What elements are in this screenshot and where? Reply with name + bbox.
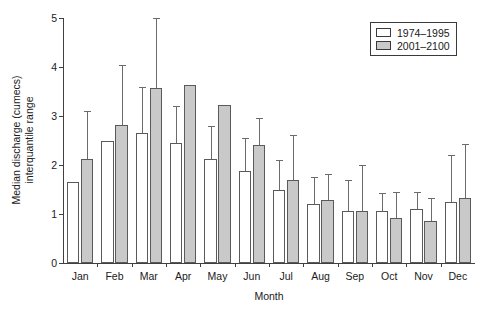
bar-jun-future <box>253 145 266 263</box>
x-axis-tick-mark <box>269 263 270 267</box>
bar-feb-future <box>115 125 128 263</box>
bar-oct-future <box>390 218 403 263</box>
y-axis-tick-mark <box>59 67 63 68</box>
y-axis-title: Median discharge (cumecs) interquantile … <box>0 0 46 280</box>
x-axis-tick-mark <box>338 263 339 267</box>
x-axis-tick-mark <box>200 263 201 267</box>
y-axis-tick-label: 0 <box>51 257 57 269</box>
error-bar-cap <box>414 192 421 193</box>
x-axis-tick-label-aug: Aug <box>311 270 330 282</box>
bar-dec-historic <box>445 202 458 263</box>
bar-may-historic <box>204 159 217 263</box>
chart-figure: Median discharge (cumecs) interquantile … <box>0 0 492 323</box>
y-axis-tick-label: 3 <box>51 110 57 122</box>
error-bar-sep-historic <box>348 180 349 211</box>
y-axis-tick-mark <box>59 116 63 117</box>
bar-feb-historic <box>101 141 114 264</box>
y-axis-title-line1: Median discharge (cumecs) <box>10 76 22 205</box>
bar-aug-future <box>321 200 334 263</box>
bar-oct-historic <box>376 211 389 263</box>
bar-may-future <box>218 105 231 263</box>
legend-label-future: 2001–2100 <box>397 40 450 52</box>
legend-swatch-historic-icon <box>376 28 391 37</box>
legend-item-future: 2001–2100 <box>376 39 450 52</box>
bar-nov-historic <box>410 209 423 263</box>
error-bar-cap <box>208 126 215 127</box>
error-bar-mar-historic <box>142 87 143 134</box>
error-bar-cap <box>139 87 146 88</box>
error-bar-cap <box>359 165 366 166</box>
bar-sep-future <box>356 211 369 263</box>
x-axis-tick-label-jul: Jul <box>279 270 292 282</box>
legend-item-historic: 1974–1995 <box>376 26 450 39</box>
error-bar-cap <box>393 192 400 193</box>
y-axis-title-line2: interquantile range <box>23 76 36 205</box>
error-bar-cap <box>325 174 332 175</box>
error-bar-feb-future <box>122 65 123 125</box>
error-bar-jul-future <box>293 135 294 180</box>
error-bar-oct-historic <box>382 193 383 210</box>
error-bar-nov-future <box>431 198 432 221</box>
x-axis-tick-label-jan: Jan <box>72 270 89 282</box>
x-axis-tick-label-oct: Oct <box>381 270 397 282</box>
error-bar-cap <box>311 177 318 178</box>
bar-dec-future <box>459 198 472 263</box>
legend-label-historic: 1974–1995 <box>397 27 450 39</box>
error-bar-jun-historic <box>245 138 246 171</box>
y-axis-tick-mark <box>59 214 63 215</box>
error-bar-jan-future <box>87 111 88 159</box>
y-axis-tick-label: 5 <box>51 12 57 24</box>
x-axis-tick-mark <box>132 263 133 267</box>
x-axis-tick-label-jun: Jun <box>243 270 260 282</box>
bar-apr-historic <box>170 143 183 263</box>
error-bar-cap <box>84 111 91 112</box>
x-axis-tick-mark <box>303 263 304 267</box>
error-bar-cap <box>276 160 283 161</box>
bar-apr-future <box>184 85 197 263</box>
x-axis-tick-mark <box>406 263 407 267</box>
error-bar-cap <box>462 144 469 145</box>
error-bar-cap <box>290 135 297 136</box>
x-axis-tick-label-feb: Feb <box>105 270 123 282</box>
bar-mar-historic <box>136 133 149 263</box>
error-bar-cap <box>256 118 263 119</box>
error-bar-sep-future <box>362 165 363 211</box>
y-axis-tick-mark <box>59 165 63 166</box>
x-axis-tick-mark <box>97 263 98 267</box>
x-axis-tick-mark <box>166 263 167 267</box>
error-bar-nov-historic <box>417 192 418 209</box>
bar-jan-future <box>81 159 94 263</box>
error-bar-oct-future <box>396 192 397 218</box>
bar-jan-historic <box>67 182 80 263</box>
y-axis-tick-label: 4 <box>51 61 57 73</box>
y-axis-tick-label: 1 <box>51 208 57 220</box>
error-bar-cap <box>428 198 435 199</box>
y-axis-tick-mark <box>59 263 63 264</box>
chart-legend: 1974–1995 2001–2100 <box>370 22 457 56</box>
y-axis-tick-mark <box>59 18 63 19</box>
error-bar-apr-historic <box>176 106 177 143</box>
error-bar-cap <box>448 155 455 156</box>
error-bar-dec-historic <box>451 155 452 202</box>
legend-swatch-future-icon <box>376 41 391 50</box>
x-axis-tick-mark <box>235 263 236 267</box>
error-bar-cap <box>345 180 352 181</box>
error-bar-jul-historic <box>279 160 280 190</box>
error-bar-cap <box>379 193 386 194</box>
x-axis-tick-label-sep: Sep <box>345 270 364 282</box>
x-axis-tick-label-apr: Apr <box>175 270 191 282</box>
bar-jul-historic <box>273 190 286 263</box>
bar-mar-future <box>150 88 163 263</box>
error-bar-dec-future <box>465 144 466 198</box>
x-axis-tick-mark <box>441 263 442 267</box>
bar-aug-historic <box>307 204 320 263</box>
error-bar-may-historic <box>211 126 212 159</box>
error-bar-aug-future <box>328 174 329 200</box>
y-axis-tick-label: 2 <box>51 159 57 171</box>
x-axis-tick-label-dec: Dec <box>448 270 467 282</box>
error-bar-cap <box>173 106 180 107</box>
error-bar-aug-historic <box>314 177 315 204</box>
x-axis-tick-label-mar: Mar <box>140 270 158 282</box>
bar-jul-future <box>287 180 300 263</box>
bar-nov-future <box>424 221 437 263</box>
